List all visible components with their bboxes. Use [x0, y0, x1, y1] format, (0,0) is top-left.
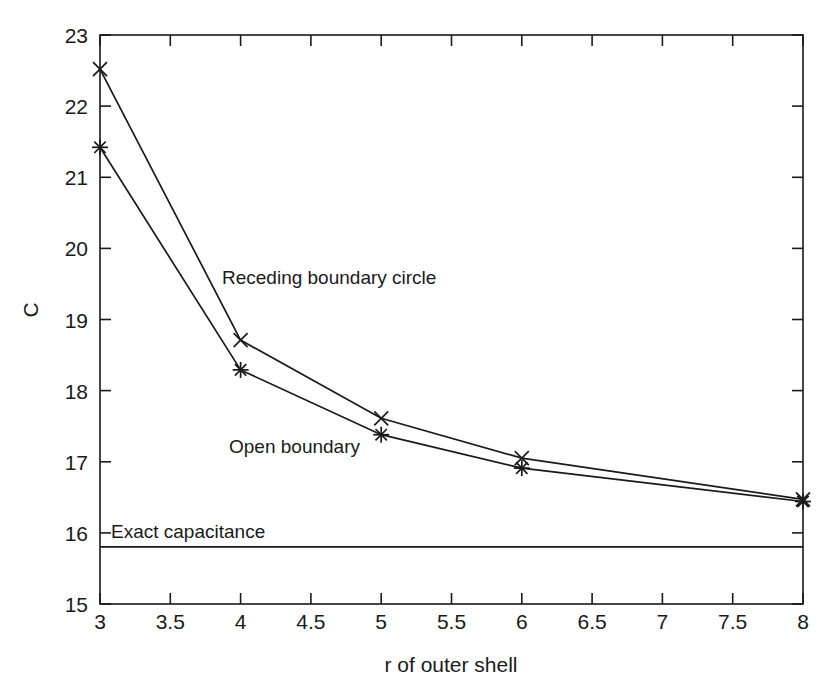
annotation-exact-capacitance: Exact capacitance: [111, 521, 265, 542]
annotation-receding-boundary-circle: Receding boundary circle: [222, 267, 436, 288]
chart-canvas: 3 3.5 4 4.5 5 5.5 6 6.5 7 7.5 8 23 22 21…: [0, 0, 840, 688]
plot-frame: [100, 35, 803, 604]
x-tick-label: 6.5: [577, 610, 606, 633]
y-axis-ticks: [100, 35, 803, 604]
annotation-open-boundary: Open boundary: [229, 436, 360, 457]
x-tick-label: 8: [797, 610, 809, 633]
y-tick-labels: 23 22 21 20 19 18 17 16 15: [65, 24, 88, 616]
marker-x: [234, 333, 248, 347]
marker-star: [795, 494, 811, 510]
marker-x: [374, 411, 388, 425]
x-tick-label: 3.5: [156, 610, 185, 633]
x-axis-ticks: [100, 35, 803, 604]
y-tick-label: 18: [65, 380, 88, 403]
y-tick-label: 19: [65, 309, 88, 332]
y-tick-label: 16: [65, 522, 88, 545]
x-tick-labels: 3 3.5 4 4.5 5 5.5 6 6.5 7 7.5 8: [94, 610, 809, 633]
marker-star: [514, 460, 530, 476]
y-tick-label: 22: [65, 95, 88, 118]
x-tick-label: 5.5: [437, 610, 466, 633]
y-tick-label: 20: [65, 237, 88, 260]
x-axis-title: r of outer shell: [384, 653, 517, 676]
x-tick-label: 5: [375, 610, 387, 633]
x-tick-label: 7: [657, 610, 669, 633]
marker-star: [233, 362, 249, 378]
series-receding-boundary-circle: [93, 62, 810, 506]
y-axis-title: C: [19, 302, 42, 317]
y-tick-label: 15: [65, 593, 88, 616]
x-tick-label: 3: [94, 610, 106, 633]
x-tick-label: 4: [235, 610, 247, 633]
x-tick-label: 6: [516, 610, 528, 633]
y-tick-label: 21: [65, 166, 88, 189]
x-tick-label: 7.5: [718, 610, 747, 633]
y-tick-label: 23: [65, 24, 88, 47]
y-tick-label: 17: [65, 451, 88, 474]
capacitance-convergence-chart: 3 3.5 4 4.5 5 5.5 6 6.5 7 7.5 8 23 22 21…: [0, 0, 840, 688]
series-open-boundary: [92, 139, 811, 509]
x-tick-label: 4.5: [296, 610, 325, 633]
marker-star: [373, 427, 389, 443]
marker-star: [92, 139, 108, 155]
